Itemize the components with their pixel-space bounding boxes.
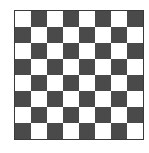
dark-square (95, 75, 111, 91)
dark-square (127, 75, 143, 91)
dark-square (79, 91, 95, 107)
dark-square (79, 123, 95, 139)
dark-square (15, 59, 31, 75)
light-square (31, 91, 47, 107)
dark-square (111, 123, 127, 139)
light-square (15, 75, 31, 91)
light-square (95, 59, 111, 75)
dark-square (111, 27, 127, 43)
dark-square (95, 107, 111, 123)
light-square (127, 91, 143, 107)
dark-square (111, 59, 127, 75)
light-square (127, 123, 143, 139)
dark-square (111, 91, 127, 107)
light-square (15, 107, 31, 123)
light-square (63, 123, 79, 139)
dark-square (127, 107, 143, 123)
dark-square (47, 59, 63, 75)
dark-square (15, 123, 31, 139)
dark-square (127, 43, 143, 59)
dark-square (47, 91, 63, 107)
dark-square (15, 91, 31, 107)
light-square (31, 59, 47, 75)
light-square (15, 11, 31, 27)
light-square (95, 91, 111, 107)
dark-square (31, 107, 47, 123)
light-square (79, 11, 95, 27)
checkerboard (15, 11, 143, 139)
dark-square (63, 11, 79, 27)
light-square (111, 43, 127, 59)
light-square (79, 75, 95, 91)
dark-square (31, 43, 47, 59)
dark-square (95, 43, 111, 59)
light-square (15, 43, 31, 59)
dark-square (95, 11, 111, 27)
dark-square (47, 27, 63, 43)
light-square (79, 43, 95, 59)
light-square (79, 107, 95, 123)
light-square (127, 59, 143, 75)
light-square (31, 123, 47, 139)
dark-square (47, 123, 63, 139)
dark-square (79, 27, 95, 43)
dark-square (31, 75, 47, 91)
light-square (47, 11, 63, 27)
light-square (31, 27, 47, 43)
light-square (63, 27, 79, 43)
light-square (111, 107, 127, 123)
light-square (95, 27, 111, 43)
light-square (63, 59, 79, 75)
dark-square (31, 11, 47, 27)
dark-square (79, 59, 95, 75)
light-square (111, 75, 127, 91)
dark-square (63, 107, 79, 123)
light-square (95, 123, 111, 139)
light-square (47, 43, 63, 59)
dark-square (63, 75, 79, 91)
light-square (111, 11, 127, 27)
dark-square (63, 43, 79, 59)
light-square (127, 27, 143, 43)
dark-square (15, 27, 31, 43)
dark-square (127, 11, 143, 27)
light-square (47, 75, 63, 91)
light-square (47, 107, 63, 123)
light-square (63, 91, 79, 107)
